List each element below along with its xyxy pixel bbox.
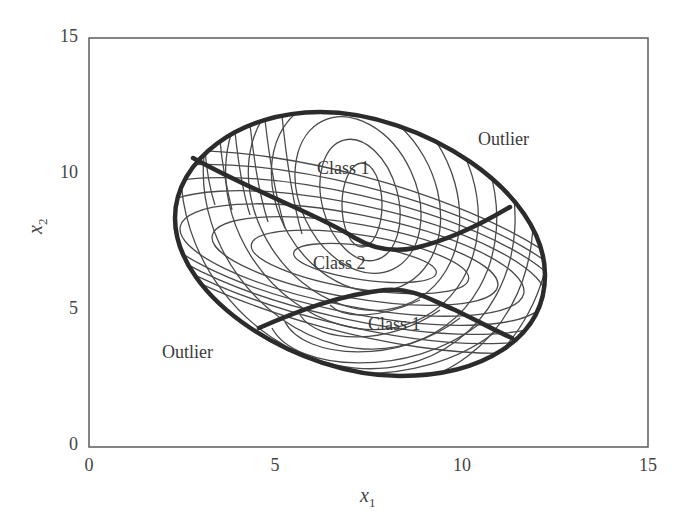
y-tick-5: 5 — [38, 298, 78, 319]
label-outlier-bottom-left: Outlier — [162, 342, 213, 363]
y-tick-15: 15 — [38, 26, 78, 47]
label-class1-top: Class 1 — [317, 158, 370, 179]
y-tick-10: 10 — [38, 162, 78, 183]
x-axis-label: x1 — [360, 484, 375, 511]
y-axis-label: x2 — [24, 219, 51, 234]
x-axis-label-sub: 1 — [369, 495, 376, 510]
label-class2-middle: Class 2 — [313, 253, 366, 274]
label-class1-bottom: Class 1 — [368, 314, 421, 335]
x-tick-15: 15 — [628, 455, 668, 476]
y-axis-label-var: x — [24, 225, 46, 234]
x-tick-0: 0 — [69, 455, 109, 476]
y-tick-0: 0 — [38, 434, 78, 455]
class2-contours — [71, 109, 618, 395]
x-tick-5: 5 — [255, 455, 295, 476]
x-tick-10: 10 — [442, 455, 482, 476]
y-axis-label-sub: 2 — [35, 219, 50, 226]
x-axis-label-var: x — [360, 484, 369, 506]
label-outlier-top-right: Outlier — [478, 129, 529, 150]
